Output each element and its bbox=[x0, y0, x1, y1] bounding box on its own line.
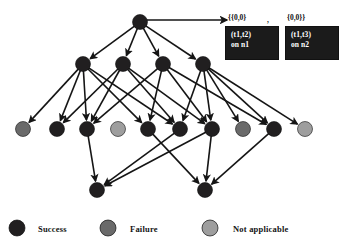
graph-edge bbox=[152, 133, 199, 183]
graph-node-success[interactable] bbox=[205, 122, 220, 137]
graph-node-failure[interactable] bbox=[16, 122, 31, 137]
graph-edge bbox=[105, 132, 207, 186]
graph-edge bbox=[90, 26, 135, 59]
legend-label-not-applicable: Not applicable bbox=[233, 224, 288, 234]
graph-edge bbox=[206, 135, 211, 181]
legend-swatch-not-applicable bbox=[202, 220, 218, 236]
graph-node-success[interactable] bbox=[90, 183, 105, 198]
graph-edge bbox=[126, 28, 137, 56]
graph-node-success[interactable] bbox=[141, 122, 156, 137]
annotation-box-1: (t1,t2) on n1 bbox=[225, 26, 279, 60]
graph-node-success[interactable] bbox=[50, 122, 65, 137]
graph-node-success[interactable] bbox=[133, 15, 148, 30]
legend-swatch-success bbox=[9, 220, 25, 236]
set-label-left: {{0,0} bbox=[228, 13, 246, 22]
graph-node-success[interactable] bbox=[156, 57, 171, 72]
figure-canvas: {{0,0} , {0,0}} (t1,t2) on n1 (t1,t3) on… bbox=[0, 0, 344, 251]
graph-node-success[interactable] bbox=[196, 57, 211, 72]
legend-label-failure: Failure bbox=[130, 224, 158, 234]
legend-label-success: Success bbox=[38, 224, 67, 234]
graph-node-failure[interactable] bbox=[236, 122, 251, 137]
graph-edge bbox=[145, 25, 196, 59]
graph-node-success[interactable] bbox=[267, 122, 282, 137]
graph-node-success[interactable] bbox=[173, 122, 188, 137]
graph-edge bbox=[83, 70, 86, 120]
annotation-box-1-line1: (t1,t2) bbox=[231, 30, 273, 40]
annotation-box-2-line2: on n2 bbox=[291, 40, 333, 50]
graph-node-success[interactable] bbox=[76, 57, 91, 72]
graph-edge bbox=[94, 68, 159, 123]
graph-node-success[interactable] bbox=[116, 57, 131, 72]
graph-edge bbox=[204, 70, 211, 120]
legend-swatch-failure bbox=[100, 220, 116, 236]
graph-edge bbox=[104, 133, 175, 185]
graph-edge bbox=[128, 68, 205, 124]
annotation-box-2: (t1,t3) on n2 bbox=[285, 26, 339, 60]
graph-node-success[interactable] bbox=[80, 122, 95, 137]
graph-node-success[interactable] bbox=[198, 183, 213, 198]
set-label-separator: , bbox=[267, 15, 269, 24]
annotation-box-1-line2: on n1 bbox=[231, 40, 273, 50]
graph-edge bbox=[208, 67, 297, 124]
graph-edge bbox=[167, 69, 207, 122]
graph-node-not-applicable[interactable] bbox=[298, 122, 313, 137]
graph-edge bbox=[143, 27, 159, 56]
graph-edge bbox=[88, 135, 96, 181]
set-label-right: {0,0}} bbox=[287, 13, 305, 22]
graph-node-not-applicable[interactable] bbox=[111, 122, 126, 137]
graph-edge bbox=[212, 133, 270, 184]
annotation-box-2-line1: (t1,t3) bbox=[291, 30, 333, 40]
